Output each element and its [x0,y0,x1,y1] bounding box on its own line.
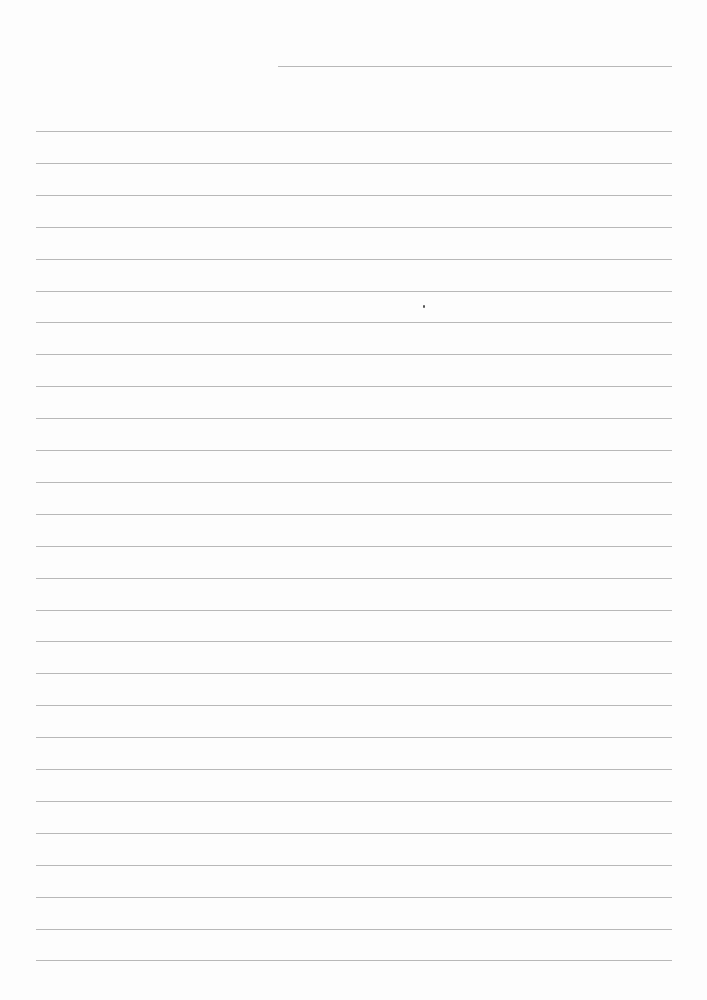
ruled-line [36,833,672,834]
header-line [278,66,672,67]
ruled-line [36,929,672,930]
ruled-line [36,801,672,802]
ruled-line [36,131,672,132]
ruled-line [36,960,672,961]
ruled-line [36,291,672,292]
ruled-line [36,514,672,515]
ruled-line [36,641,672,642]
ruled-line [36,578,672,579]
ruled-line [36,610,672,611]
ruled-line [36,673,672,674]
ruled-line [36,163,672,164]
ink-speck [423,305,425,308]
ruled-line [36,865,672,866]
ruled-line [36,386,672,387]
ruled-line [36,259,672,260]
ruled-line [36,546,672,547]
ruled-line [36,737,672,738]
ruled-line [36,769,672,770]
ruled-line [36,705,672,706]
ruled-line [36,418,672,419]
ruled-line [36,195,672,196]
ruled-line [36,354,672,355]
ruled-line [36,227,672,228]
ruled-line [36,482,672,483]
ruled-line [36,897,672,898]
ruled-line [36,322,672,323]
ruled-line [36,450,672,451]
